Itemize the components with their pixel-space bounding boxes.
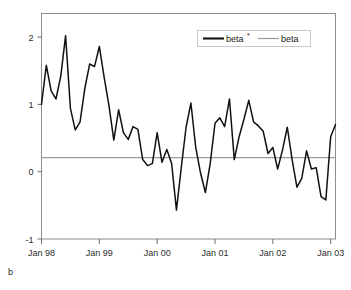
y-tick-label: -1: [25, 235, 33, 245]
legend-label-beta-star: beta: [226, 34, 244, 44]
legend-label-beta: beta: [281, 34, 299, 44]
figure-panel-b: 210-1 Jan 98Jan 99Jan 00Jan 01Jan 02Jan …: [0, 0, 351, 290]
panel-label-b: b: [8, 267, 13, 277]
y-tick-label: 0: [28, 167, 33, 177]
beta-time-series-chart: 210-1 Jan 98Jan 99Jan 00Jan 01Jan 02Jan …: [0, 0, 351, 290]
y-tick-label: 2: [28, 33, 33, 43]
x-tick-label: Jan 03: [317, 248, 344, 258]
x-tick-label: Jan 98: [28, 248, 55, 258]
x-tick-label: Jan 99: [86, 248, 113, 258]
chart-legend: beta * beta: [198, 31, 311, 47]
x-tick-label: Jan 02: [259, 248, 286, 258]
x-tick-label: Jan 01: [201, 248, 228, 258]
y-tick-label: 1: [28, 100, 33, 110]
legend-superscript-beta-star: *: [247, 32, 250, 39]
x-tick-label: Jan 00: [144, 248, 171, 258]
